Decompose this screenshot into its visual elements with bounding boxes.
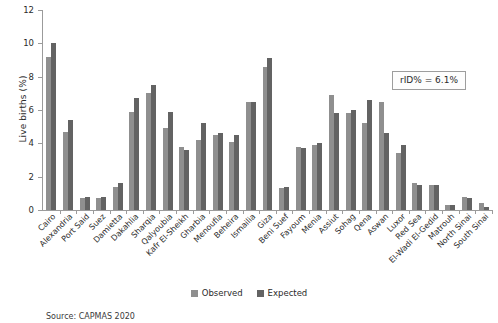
bar-group	[462, 10, 472, 210]
bar-group	[63, 10, 73, 210]
bar-expected	[351, 110, 356, 210]
bar-group	[229, 10, 239, 210]
bar-expected	[450, 205, 455, 210]
bar-group	[329, 10, 339, 210]
bar-group	[312, 10, 322, 210]
bar-expected	[434, 185, 439, 210]
y-tick-label: 4	[10, 138, 34, 148]
bar-group	[163, 10, 173, 210]
y-tick-mark	[38, 43, 42, 44]
bar-expected	[467, 198, 472, 210]
y-tick-label: 12	[10, 5, 34, 15]
bar-group	[46, 10, 56, 210]
bar-expected	[85, 197, 90, 210]
bar-group	[412, 10, 422, 210]
bar-expected	[251, 102, 256, 210]
legend-label: Expected	[268, 288, 308, 298]
bar-expected	[184, 150, 189, 210]
bar-expected	[484, 207, 489, 210]
bar-expected	[301, 148, 306, 210]
y-tick-mark	[38, 143, 42, 144]
bar-expected	[51, 43, 56, 210]
bar-expected	[334, 113, 339, 210]
bar-group	[396, 10, 406, 210]
bar-expected	[168, 112, 173, 210]
bar-group	[263, 10, 273, 210]
y-tick-mark	[38, 177, 42, 178]
legend-swatch	[257, 290, 264, 297]
chart-figure: Live births (%) 024681012 CairoAlexandri…	[0, 0, 498, 323]
bar-group	[346, 10, 356, 210]
bar-group	[246, 10, 256, 210]
bar-group	[129, 10, 139, 210]
plot-area: 024681012	[42, 10, 492, 210]
bar-group	[179, 10, 189, 210]
bar-expected	[101, 197, 106, 210]
bar-group	[96, 10, 106, 210]
bar-expected	[68, 120, 73, 210]
bar-group	[362, 10, 372, 210]
bar-expected	[417, 185, 422, 210]
bar-expected	[367, 100, 372, 210]
bar-group	[279, 10, 289, 210]
legend-swatch	[191, 290, 198, 297]
legend-label: Observed	[202, 288, 243, 298]
bar-group	[445, 10, 455, 210]
legend-item: Expected	[257, 288, 308, 298]
bar-group	[429, 10, 439, 210]
bar-expected	[234, 135, 239, 210]
y-tick-mark	[38, 210, 42, 211]
bar-group	[146, 10, 156, 210]
y-tick-label: 2	[10, 172, 34, 182]
bar-expected	[151, 85, 156, 210]
y-tick-label: 10	[10, 38, 34, 48]
chart-legend: ObservedExpected	[0, 288, 498, 298]
bar-group	[196, 10, 206, 210]
y-tick-mark	[38, 10, 42, 11]
bar-group	[296, 10, 306, 210]
rid-annotation-box: rID% = 6.1%	[392, 71, 466, 90]
bar-expected	[384, 133, 389, 210]
y-tick-label: 6	[10, 105, 34, 115]
bar-expected	[118, 183, 123, 210]
bar-group	[80, 10, 90, 210]
bar-group	[113, 10, 123, 210]
y-tick-label: 0	[10, 205, 34, 215]
bar-expected	[284, 187, 289, 210]
bar-expected	[401, 145, 406, 210]
y-tick-mark	[38, 77, 42, 78]
legend-item: Observed	[191, 288, 243, 298]
bar-group	[213, 10, 223, 210]
bar-group	[379, 10, 389, 210]
bar-expected	[267, 58, 272, 210]
bar-expected	[134, 98, 139, 210]
source-caption: Source: CAPMAS 2020	[46, 312, 135, 321]
bar-expected	[317, 143, 322, 210]
y-tick-mark	[38, 110, 42, 111]
bar-expected	[218, 133, 223, 210]
bar-groups	[43, 10, 492, 210]
y-tick-label: 8	[10, 72, 34, 82]
bar-group	[479, 10, 489, 210]
bar-expected	[201, 123, 206, 210]
